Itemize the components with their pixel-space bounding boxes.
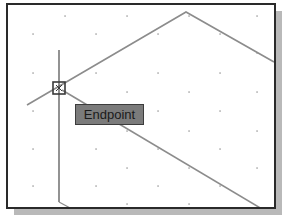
grid-dot bbox=[95, 72, 96, 73]
grid-dot bbox=[219, 148, 220, 149]
crosshair-foot bbox=[59, 202, 72, 207]
grid-dot bbox=[126, 130, 127, 131]
grid-dot bbox=[219, 110, 220, 111]
grid-dot bbox=[64, 15, 65, 16]
grid-dot bbox=[32, 148, 33, 149]
grid-dot bbox=[188, 167, 189, 168]
grid-dot bbox=[256, 167, 257, 168]
grid-dot bbox=[126, 91, 127, 92]
grid-dot bbox=[32, 33, 33, 34]
tooltip-label: Endpoint bbox=[84, 107, 135, 122]
grid-dot bbox=[32, 185, 33, 186]
drawing-viewport[interactable]: Endpoint bbox=[6, 3, 276, 209]
grid-dot bbox=[126, 203, 127, 204]
grid-dot bbox=[188, 203, 189, 204]
grid-dot bbox=[188, 91, 189, 92]
grid-dot bbox=[219, 72, 220, 73]
grid-dot bbox=[188, 15, 189, 16]
grid-dot bbox=[95, 148, 96, 149]
grid-dot bbox=[219, 185, 220, 186]
grid-dot bbox=[219, 33, 220, 34]
grid-dot bbox=[188, 130, 189, 131]
grid-dot bbox=[256, 15, 257, 16]
grid-dot bbox=[126, 167, 127, 168]
grid-dot bbox=[32, 72, 33, 73]
grid-dot bbox=[157, 72, 158, 73]
grid-dot bbox=[157, 110, 158, 111]
grid-dot bbox=[256, 130, 257, 131]
grid-dot bbox=[95, 185, 96, 186]
grid-dots bbox=[32, 15, 257, 204]
grid-dot bbox=[32, 110, 33, 111]
grid-dot bbox=[157, 33, 158, 34]
grid-dot bbox=[126, 15, 127, 16]
osnap-tooltip: Endpoint bbox=[75, 104, 144, 125]
grid-dot bbox=[157, 148, 158, 149]
grid-dot bbox=[256, 91, 257, 92]
grid-dot bbox=[95, 33, 96, 34]
grid-dot bbox=[157, 185, 158, 186]
